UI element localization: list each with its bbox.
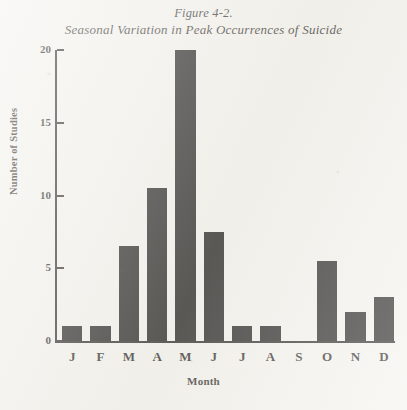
x-tick-label-july: J: [239, 349, 246, 365]
x-tick-label-april: A: [152, 349, 161, 365]
y-tick-label-15: 15: [40, 116, 51, 128]
y-tick-20: 20: [57, 49, 64, 51]
y-tick-label-10: 10: [40, 188, 51, 200]
x-tick-label-may: M: [179, 349, 191, 365]
bar-m-4: [175, 50, 195, 341]
x-tick-label-january: J: [69, 349, 76, 365]
bar-a-7: [260, 326, 280, 341]
figure-root: Figure 4-2. Seasonal Variation in Peak O…: [0, 0, 407, 410]
figure-number: Figure 4-2.: [0, 6, 407, 21]
figure-title-block: Figure 4-2. Seasonal Variation in Peak O…: [0, 6, 407, 38]
bar-o-9: [317, 261, 337, 341]
x-tick-label-october: O: [322, 349, 332, 365]
plot-area: 05101520 JFMAMJJASOND: [55, 50, 395, 341]
y-tick-label-5: 5: [46, 261, 52, 273]
x-tick-label-march: M: [123, 349, 135, 365]
x-axis-title: Month: [0, 375, 407, 387]
figure-caption: Seasonal Variation in Peak Occurrences o…: [0, 21, 407, 38]
bar-j-5: [204, 232, 224, 341]
x-tick-label-december: D: [379, 349, 388, 365]
x-tick-label-february: F: [97, 349, 105, 365]
bar-j-6: [232, 326, 252, 341]
y-tick-15: 15: [57, 122, 64, 124]
y-axis-title: Number of Studies: [8, 108, 19, 195]
x-tick-label-june: J: [211, 349, 218, 365]
bar-m-2: [119, 246, 139, 341]
x-axis-line: [55, 341, 395, 343]
y-tick-label-20: 20: [40, 43, 51, 55]
bar-d-11: [374, 297, 394, 341]
y-tick-10: 10: [57, 195, 64, 197]
x-tick-label-september: S: [295, 349, 302, 365]
y-tick-label-0: 0: [46, 334, 52, 346]
x-tick-label-november: N: [351, 349, 360, 365]
y-tick-5: 5: [57, 267, 64, 269]
bar-n-10: [345, 312, 365, 341]
bar-f-1: [90, 326, 110, 341]
x-tick-label-august: A: [266, 349, 275, 365]
bar-j-0: [62, 326, 82, 341]
bar-a-3: [147, 188, 167, 341]
